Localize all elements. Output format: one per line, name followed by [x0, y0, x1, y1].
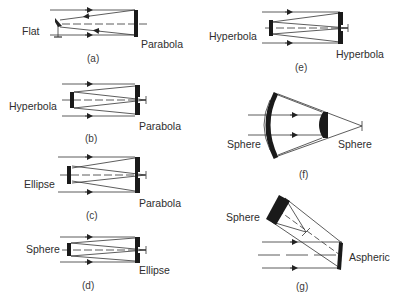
panel-b-cassegrain — [62, 84, 146, 116]
label-e-primary: Hyperbola — [336, 48, 384, 60]
label-g-secondary: Sphere — [226, 211, 260, 223]
caption-b: (b) — [85, 133, 97, 145]
label-g-primary: Aspheric — [349, 251, 390, 263]
caption-f: (f) — [299, 169, 308, 181]
label-c-primary: Parabola — [139, 197, 181, 209]
label-f-primary: Sphere — [338, 138, 372, 150]
label-d-secondary: Sphere — [26, 243, 60, 255]
label-a-primary: Parabola — [141, 38, 183, 50]
panel-a-newtonian — [50, 10, 148, 37]
label-b-secondary: Hyperbola — [9, 100, 57, 112]
label-c-secondary: Ellipse — [24, 178, 55, 190]
caption-a: (a) — [87, 53, 99, 65]
caption-c: (c) — [86, 210, 98, 222]
parabola-mirror-icon — [134, 10, 138, 37]
label-d-primary: Ellipse — [139, 264, 170, 276]
label-f-secondary: Sphere — [227, 138, 261, 150]
label-e-secondary: Hyperbola — [209, 30, 257, 42]
panel-d-dall-kirkham — [60, 237, 146, 263]
flat-mirror-icon — [55, 18, 62, 27]
caption-d: (d) — [82, 280, 94, 292]
panel-c-gregorian — [58, 157, 146, 193]
panel-e-ritchey-chretien — [262, 12, 348, 44]
caption-g: (g) — [296, 281, 308, 293]
label-b-primary: Parabola — [139, 120, 181, 132]
label-a-secondary: Flat — [22, 25, 40, 37]
panel-g-off-axis — [258, 195, 343, 270]
caption-e: (e) — [295, 62, 307, 74]
